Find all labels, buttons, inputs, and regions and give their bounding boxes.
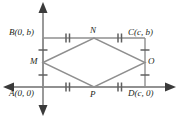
- y-axis-down-arrow-icon: [39, 105, 48, 116]
- vertex-label-b: B(0, b): [9, 28, 34, 37]
- y-axis-up-arrow-icon: [39, 2, 48, 13]
- midpoint-label-n: N: [90, 26, 96, 35]
- rhombus-mnop: [43, 38, 145, 87]
- tick-marks-single: [39, 50, 150, 75]
- midpoint-label-o: O: [148, 57, 155, 66]
- x-axis-right-arrow-icon: [165, 83, 176, 92]
- tick-marks-double: [66, 34, 122, 92]
- midpoint-label-m: M: [30, 57, 38, 66]
- geometry-figure: B(0, b) C(c, b) A(0, 0) D(c, 0) M N O P: [0, 0, 179, 118]
- rhombus-path: [43, 38, 145, 87]
- vertex-label-a: A(0, 0): [9, 89, 34, 98]
- midpoint-label-p: P: [90, 90, 96, 99]
- vertex-label-d: D(c, 0): [128, 89, 154, 98]
- vertex-label-c: C(c, b): [128, 28, 153, 37]
- rectangle-abcd: [43, 38, 145, 87]
